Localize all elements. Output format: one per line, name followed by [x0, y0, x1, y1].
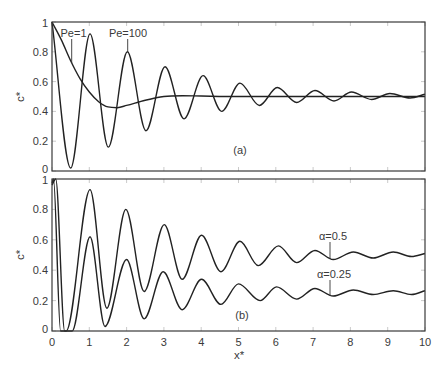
panel-a-y-tick-labels: 00.20.40.60.81 — [33, 17, 48, 175]
y-tick-label: 0.2 — [33, 295, 48, 307]
x-tick-label: 8 — [347, 336, 353, 348]
x-tick-label: 0 — [49, 336, 55, 348]
y-tick-label: 0.6 — [33, 76, 48, 88]
panel-b-label: (b) — [235, 309, 248, 321]
x-tick-label: 9 — [385, 336, 391, 348]
y-tick-label: 0.8 — [33, 203, 48, 215]
pe1-annotation: Pe=1 — [61, 27, 87, 39]
panel-b-y-tick-labels: 00.20.40.60.81 — [33, 174, 48, 335]
alpha05-annotation: α=0.5 — [319, 230, 347, 242]
panel-a: 00.20.40.60.81 c* Pe=1 Pe=100 (a) — [14, 17, 425, 175]
y-tick-label: 1 — [42, 17, 48, 29]
y-tick-label: 0.4 — [33, 105, 48, 117]
y-tick-label: 0.2 — [33, 135, 48, 147]
panel-b: 00.20.40.60.81 012345678910 c* α=0.5 α=0… — [14, 174, 431, 348]
x-tick-label: 6 — [273, 336, 279, 348]
x-tick-label: 10 — [419, 336, 431, 348]
y-tick-label: 0.4 — [33, 264, 48, 276]
x-tick-label: 2 — [124, 336, 130, 348]
panel-a-label: (a) — [233, 144, 246, 156]
alpha025-annotation: α=0.25 — [317, 268, 351, 280]
y-tick-label: 1 — [42, 174, 48, 186]
x-tick-label: 7 — [310, 336, 316, 348]
x-tick-label: 3 — [161, 336, 167, 348]
y-tick-label: 0.8 — [33, 46, 48, 58]
x-tick-label: 1 — [86, 336, 92, 348]
x-tick-label: 5 — [235, 336, 241, 348]
panel-a-y-axis-label: c* — [14, 91, 26, 102]
figure: 00.20.40.60.81 c* Pe=1 Pe=100 (a) 00.20.… — [0, 0, 446, 375]
x-axis-label: x* — [234, 349, 245, 361]
x-tick-label: 4 — [198, 336, 204, 348]
x-tick-labels: 012345678910 — [49, 336, 431, 348]
y-tick-label: 0.6 — [33, 234, 48, 246]
panel-b-y-axis-label: c* — [14, 249, 26, 260]
pe100-annotation: Pe=100 — [109, 27, 147, 39]
y-tick-label: 0 — [42, 323, 48, 335]
